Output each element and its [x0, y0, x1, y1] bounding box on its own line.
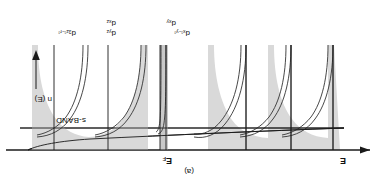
orbital-base: d — [112, 19, 116, 28]
orbital-base: d — [186, 29, 190, 38]
orbital-subscript: xy — [167, 19, 172, 24]
orbital-label-d-xy: dxy — [167, 18, 176, 27]
orbital-label-d-x2-y2: dx²−y² — [174, 28, 190, 37]
orbital-label-d-3z2-r2: d3z²−r² — [58, 28, 76, 37]
orbital-subscript: yz — [107, 29, 112, 34]
orbital-subscript: xz — [107, 19, 112, 24]
figure-canvas: (a) E EF s-BAND n (E) dx²−y² dxy dyz dxz… — [0, 0, 372, 195]
dos-axis-label: n (E) — [35, 95, 52, 103]
panel-tag: (a) — [184, 167, 194, 175]
s-band-label: s-BAND — [56, 116, 86, 124]
orbital-subscript: x²−y² — [174, 29, 185, 34]
rotated-figure-group: (a) E EF s-BAND n (E) dx²−y² dxy dyz dxz… — [0, 0, 372, 195]
fermi-level-subscript: F — [163, 156, 166, 162]
orbital-base: d — [112, 29, 116, 38]
orbital-label-d-xz: dxz — [107, 18, 116, 27]
orbital-subscript: 3z²−r² — [58, 29, 71, 34]
orbital-base: d — [172, 19, 176, 28]
energy-axis-label: E — [340, 156, 346, 165]
occupied-states-shading — [208, 45, 340, 150]
fermi-level-label: EF — [163, 155, 172, 165]
orbital-label-d-yz: dyz — [107, 28, 116, 37]
orbital-base: d — [72, 29, 76, 38]
fermi-level-symbol: E — [166, 156, 172, 166]
